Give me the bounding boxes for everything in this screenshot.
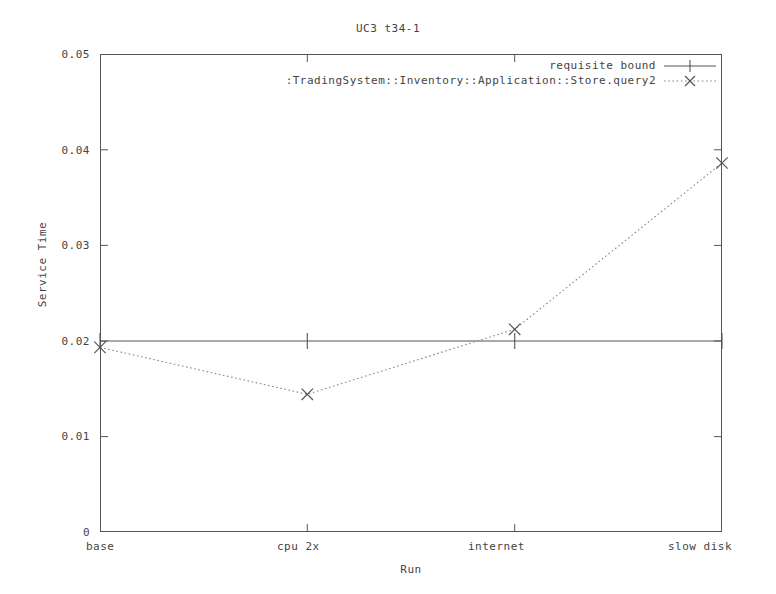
y-axis-tick-label: 0.05 bbox=[20, 49, 90, 60]
legend-label: requisite bound bbox=[549, 60, 656, 71]
x-axis-label: Run bbox=[100, 563, 722, 576]
plot-area bbox=[100, 54, 722, 532]
legend-sample-dotted-cross bbox=[662, 74, 718, 88]
chart-legend: requisite bound :TradingSystem::Inventor… bbox=[228, 58, 718, 90]
y-axis-tick-label: 0.01 bbox=[20, 431, 90, 442]
legend-entry-store-query2: :TradingSystem::Inventory::Application::… bbox=[286, 73, 718, 88]
x-axis-tick-label: base bbox=[86, 541, 115, 552]
y-axis-tick-label: 0.02 bbox=[20, 336, 90, 347]
chart-figure: UC3 t34-1 0.05 0.04 0.03 0.02 0.01 0 bas… bbox=[0, 0, 776, 594]
x-axis-tick-label: cpu 2x bbox=[277, 541, 320, 552]
y-axis-tick-label: 0 bbox=[20, 527, 90, 538]
x-axis-tick-label: slow disk bbox=[668, 541, 732, 552]
legend-label: :TradingSystem::Inventory::Application::… bbox=[286, 75, 656, 86]
y-axis-tick-label: 0.04 bbox=[20, 145, 90, 156]
legend-sample-solid-plus bbox=[662, 59, 718, 73]
chart-title: UC3 t34-1 bbox=[0, 22, 776, 35]
x-axis-tick-label: internet bbox=[468, 541, 525, 552]
legend-entry-requisite-bound: requisite bound bbox=[549, 58, 718, 73]
y-axis-label: Service Time bbox=[36, 205, 49, 325]
y-axis-tick-label: 0.03 bbox=[20, 240, 90, 251]
